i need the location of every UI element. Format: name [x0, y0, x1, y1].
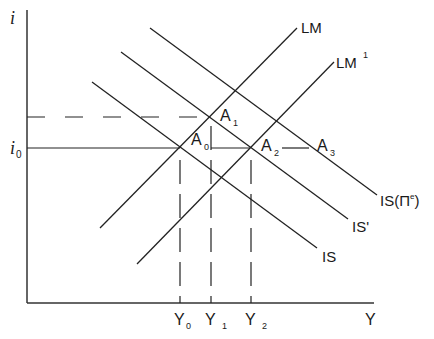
- a0-point-label: A 0: [191, 131, 209, 152]
- a2-point-label: A 2: [261, 137, 279, 158]
- y0-tick-label: Y 0: [174, 311, 191, 331]
- svg-text:LM: LM: [336, 54, 357, 71]
- a3-point-label: A 3: [317, 137, 335, 158]
- svg-text:i: i: [10, 138, 15, 158]
- svg-text:3: 3: [330, 148, 335, 158]
- lm-label: LM: [301, 19, 322, 36]
- i0-tick-label: i 0: [10, 138, 22, 160]
- svg-text:A: A: [261, 137, 272, 154]
- svg-text:A: A: [220, 107, 231, 124]
- is-curve: [92, 82, 317, 248]
- svg-text:2: 2: [274, 148, 279, 158]
- is-prime-curve: [121, 52, 348, 219]
- x-axis-label: Y: [365, 311, 376, 328]
- y-axis-label: i: [10, 8, 15, 28]
- svg-text:A: A: [191, 131, 202, 148]
- svg-text:0: 0: [186, 321, 191, 331]
- svg-text:1: 1: [363, 50, 368, 60]
- svg-text:Y: Y: [245, 311, 256, 328]
- y2-tick-label: Y 2: [245, 311, 267, 331]
- lm1-curve: [137, 62, 334, 264]
- svg-text:Y: Y: [174, 311, 185, 328]
- svg-text:Y: Y: [205, 311, 216, 328]
- svg-text:1: 1: [233, 118, 238, 128]
- svg-text:0: 0: [204, 142, 209, 152]
- svg-text:A: A: [317, 137, 328, 154]
- y1-tick-label: Y 1: [205, 311, 227, 331]
- a1-point-label: A 1: [220, 107, 238, 128]
- lm1-label: LM 1: [336, 50, 368, 71]
- svg-text:IS(Πe): IS(Πe): [380, 192, 419, 209]
- svg-text:1: 1: [222, 321, 227, 331]
- svg-text:0: 0: [16, 149, 22, 160]
- is-label: IS: [322, 248, 336, 265]
- is-lm-diagram: i Y i 0 Y 0 Y 1 Y 2 LM LM 1 IS IS' IS(Πe…: [0, 0, 434, 339]
- is-pe-label: IS(Πe): [380, 192, 419, 209]
- is-prime-label: IS': [352, 218, 369, 235]
- svg-text:2: 2: [262, 321, 267, 331]
